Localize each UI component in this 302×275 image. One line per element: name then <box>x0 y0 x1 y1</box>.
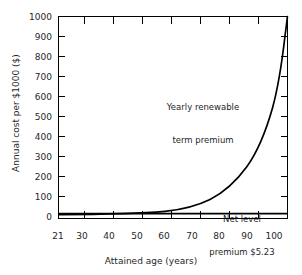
axis-frame <box>58 16 288 219</box>
chart-plot-area <box>0 0 302 275</box>
top-axis-ticks <box>85 16 259 24</box>
yearly-renewable-term-premium-curve <box>59 17 287 215</box>
chart-figure: 1000 900 800 700 600 500 400 300 200 100… <box>0 0 302 275</box>
x-axis-ticks <box>85 211 259 219</box>
